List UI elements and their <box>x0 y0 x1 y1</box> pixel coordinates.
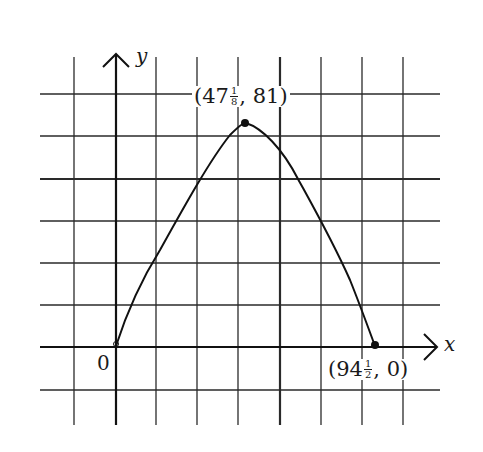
y-axis-label: y <box>136 46 147 66</box>
x-intercept-label: ( 94 1 2 , 0) <box>326 359 410 380</box>
intercept-label-rest: , 0) <box>373 359 408 380</box>
vertex-label-fraction: 1 8 <box>230 86 238 107</box>
vertex-label-whole: 47 <box>202 86 229 107</box>
vertex-label-open: ( <box>194 86 202 107</box>
x-intercept-point <box>371 341 379 349</box>
graph-canvas <box>0 0 483 452</box>
origin-label: 0 <box>97 353 110 373</box>
parabola-curve <box>116 123 375 346</box>
vertex-label: ( 47 1 8 , 81) <box>192 86 290 107</box>
parabola-figure: y x 0 ( 47 1 8 , 81) ( 94 1 2 , 0) <box>0 0 483 452</box>
intercept-fraction-denominator: 2 <box>364 370 372 380</box>
horizontal-grid-lines <box>40 94 440 390</box>
intercept-label-open: ( <box>328 359 336 380</box>
vertex-label-rest: , 81) <box>239 86 287 107</box>
intercept-label-whole: 94 <box>336 359 363 380</box>
intercept-label-fraction: 1 2 <box>364 359 372 380</box>
vertex-point <box>241 119 249 127</box>
vertex-fraction-denominator: 8 <box>230 97 238 107</box>
x-axis-label: x <box>444 334 455 354</box>
